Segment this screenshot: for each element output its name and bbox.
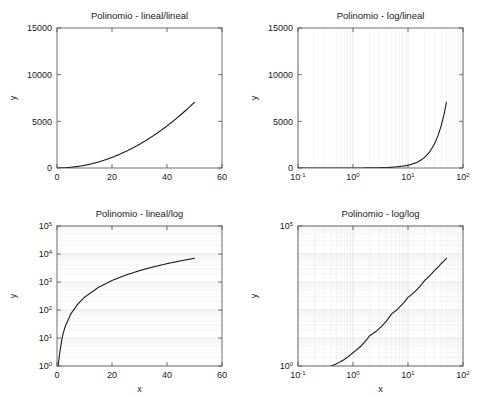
plot-title: Polinomio - lineal/lineal [91,10,188,21]
x-tick-label: 101 [401,370,415,381]
plot-title: Polinomio - lineal/log [96,208,184,219]
y-tick-label: 5000 [273,117,293,127]
y-tick-label: 105 [280,221,294,232]
subplot-log-lineal: 10-1100101102050001000015000Polinomio - … [241,0,482,199]
plot-title: Polinomio - log/log [341,208,419,219]
x-tick-label: 100 [346,172,360,183]
x-tick-label: 10-1 [290,370,306,381]
plot-title: Polinomio - log/lineal [337,10,425,21]
x-tick-label: 102 [456,172,470,183]
chart-log-lineal: 10-1100101102050001000015000Polinomio - … [241,0,482,199]
y-axis-label: y [8,95,18,100]
y-tick-label: 100 [39,361,53,372]
plot-background [57,28,222,168]
y-tick-label: 15000 [268,23,293,33]
chart-log-log: 10-1100101102100105Polinomio - log/logyx [241,198,482,397]
chart-lineal-log: 0204060100101102103104105Polinomio - lin… [0,198,241,397]
y-tick-label: 102 [39,305,53,316]
x-tick-label: 20 [107,172,117,182]
subplot-lineal-log: 0204060100101102103104105Polinomio - lin… [0,198,241,397]
chart-lineal-lineal: 0204060050001000015000Polinomio - lineal… [0,0,241,199]
y-axis-label: y [249,293,259,298]
x-axis-label: x [137,384,142,394]
x-axis-label: x [378,384,383,394]
x-tick-label: 40 [162,370,172,380]
x-tick-label: 101 [401,172,415,183]
x-tick-label: 102 [456,370,470,381]
x-tick-label: 40 [162,172,172,182]
x-tick-label: 0 [54,172,59,182]
y-tick-label: 101 [39,333,53,344]
y-tick-label: 105 [39,221,53,232]
y-tick-label: 5000 [32,117,52,127]
subplot-lineal-lineal: 0204060050001000015000Polinomio - lineal… [0,0,241,199]
y-axis-label: y [249,95,259,100]
x-tick-label: 60 [217,370,227,380]
x-tick-label: 60 [217,172,227,182]
plot-background [298,28,463,168]
plot-background [298,226,463,366]
x-tick-label: 0 [54,370,59,380]
x-tick-label: 20 [107,370,117,380]
y-tick-label: 104 [39,249,53,260]
x-tick-label: 100 [346,370,360,381]
figure-canvas: 0204060050001000015000Polinomio - lineal… [0,0,482,397]
y-tick-label: 10000 [27,70,52,80]
y-axis-label: y [8,293,18,298]
subplot-log-log: 10-1100101102100105Polinomio - log/logyx [241,198,482,397]
y-tick-label: 103 [39,277,53,288]
y-tick-label: 0 [288,163,293,173]
plot-background [57,226,222,366]
y-tick-label: 15000 [27,23,52,33]
y-tick-label: 10000 [268,70,293,80]
y-tick-label: 0 [47,163,52,173]
